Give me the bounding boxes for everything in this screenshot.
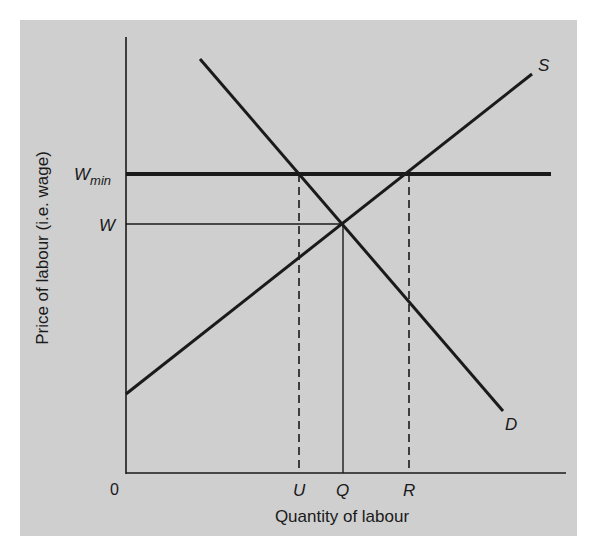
supply-label: S (538, 56, 550, 75)
origin-label: 0 (110, 481, 119, 498)
minimum-wage-diagram: S D Wmin W U Q R 0 Quantity of labour Pr… (0, 0, 598, 558)
w-label: W (99, 216, 117, 235)
q-label: Q (336, 481, 349, 500)
y-axis-label: Price of labour (i.e. wage) (33, 151, 52, 345)
x-axis-label: Quantity of labour (275, 507, 410, 526)
demand-label: D (505, 415, 517, 434)
u-label: U (293, 481, 306, 500)
r-label: R (403, 481, 415, 500)
wmin-label-subscript: min (90, 173, 111, 188)
